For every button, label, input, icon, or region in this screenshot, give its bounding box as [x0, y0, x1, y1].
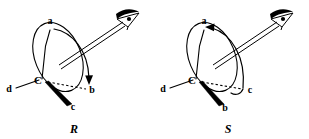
- config-label-s: S: [225, 122, 232, 136]
- substituent-label-d-r: d: [6, 83, 12, 94]
- substituent-label-b-s: b: [222, 102, 228, 113]
- stereochemistry-figure: C a b c d R: [0, 0, 309, 139]
- stereochemistry-diagram: C a b c d R: [0, 0, 309, 139]
- substituent-label-c-r: c: [71, 101, 76, 112]
- substituent-label-a-r: a: [48, 15, 53, 26]
- config-label-r: R: [69, 122, 78, 136]
- substituent-label-b-r: b: [89, 84, 95, 95]
- center-atom-label-s: C: [188, 74, 196, 86]
- substituent-label-c-s: c: [248, 84, 253, 95]
- figure-background: [0, 0, 309, 139]
- substituent-label-d-s: d: [160, 83, 166, 94]
- center-atom-label-r: C: [34, 74, 42, 86]
- substituent-label-a-s: a: [202, 15, 207, 26]
